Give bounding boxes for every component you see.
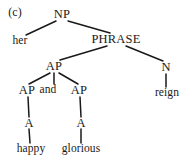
tree-edge-ap-right-to-a-right [80, 97, 81, 117]
tree-node-phrase: PHRASE [91, 33, 140, 46]
syntax-tree-figure: (c) NPherPHRASEAPNAPandAPreignAAhappyglo… [0, 0, 188, 163]
tree-node-ap-left: AP [19, 84, 35, 97]
tree-node-a-right: A [76, 117, 85, 130]
tree-node-np: NP [54, 8, 70, 21]
tree-node-a-left: A [24, 117, 33, 130]
tree-node-ap-right: AP [71, 84, 87, 97]
tree-node-happy: happy [17, 143, 46, 155]
tree-node-ap-mid: AP [46, 60, 62, 73]
tree-node-and: and [40, 84, 57, 96]
tree-edge-np-to-her [26, 21, 56, 35]
tree-edge-phrase-to-n [126, 46, 163, 61]
tree-node-reign: reign [155, 87, 179, 99]
tree-edge-ap-left-to-a-left [28, 97, 29, 117]
tree-edge-a-left-to-happy [29, 129, 30, 143]
tree-edges [0, 0, 188, 163]
tree-edge-phrase-to-ap-mid [60, 46, 107, 60]
tree-node-n: N [161, 61, 170, 74]
tree-node-her: her [13, 35, 28, 47]
tree-node-glorious: glorious [62, 143, 101, 155]
